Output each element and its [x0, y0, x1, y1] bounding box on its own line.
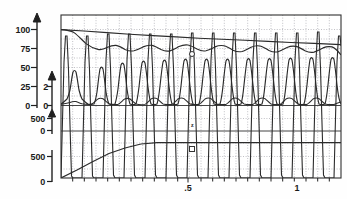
x-axis-ticks — [73, 178, 330, 183]
curve-marker-circle-upper — [189, 51, 195, 57]
curve-marker-square-lower — [189, 146, 195, 152]
curve-tag-label-z: z — [191, 122, 194, 128]
curve-tag-label-a: a — [190, 101, 193, 107]
plot-area — [0, 0, 347, 199]
chart-figure: 100 75 50 25 0 2 0 500 0 500 0 .5 1 — [0, 0, 347, 199]
